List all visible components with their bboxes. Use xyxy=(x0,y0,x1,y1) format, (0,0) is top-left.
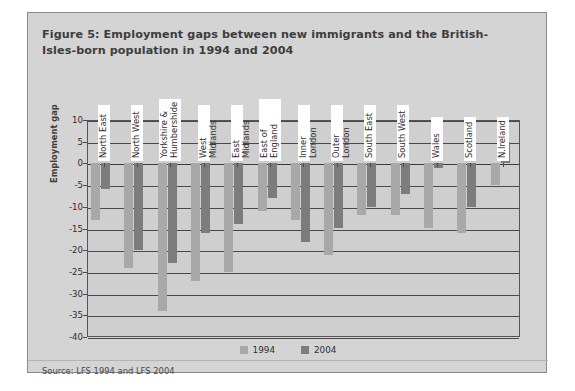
x-category-label: South East xyxy=(364,105,376,161)
x-tickmark xyxy=(237,163,238,167)
bar-2004 xyxy=(334,163,343,228)
bar-2004 xyxy=(234,163,243,224)
bar-1994 xyxy=(91,163,100,219)
x-category-label: West Midlands xyxy=(198,105,210,161)
x-tickmark xyxy=(303,163,304,167)
x-tickmark xyxy=(337,163,338,167)
bar-1994 xyxy=(357,163,366,215)
bar-2004 xyxy=(101,163,110,189)
bar-1994 xyxy=(424,163,433,228)
chart-legend: 19942004 xyxy=(28,345,548,355)
x-tickmark xyxy=(503,163,504,167)
bar-2004 xyxy=(434,163,443,167)
x-category-label: East of England xyxy=(259,99,281,161)
x-category-label: South West xyxy=(397,105,409,161)
bar-2004 xyxy=(201,163,210,232)
legend-item: 1994 xyxy=(240,345,275,355)
legend-item: 2004 xyxy=(301,345,336,355)
x-tickmark xyxy=(437,163,438,167)
gridline xyxy=(88,338,519,339)
bar-1994 xyxy=(158,163,167,311)
legend-label: 2004 xyxy=(314,345,336,355)
x-category-label: East Midlands xyxy=(231,105,243,161)
bar-1994 xyxy=(391,163,400,215)
bar-1994 xyxy=(291,163,300,219)
bar-2004 xyxy=(401,163,410,193)
x-tickmark xyxy=(170,163,171,167)
x-category-label: North West xyxy=(131,105,143,161)
x-category-label: N.Ireland xyxy=(497,117,509,161)
bar-1994 xyxy=(324,163,333,254)
x-category-label: Inner London xyxy=(298,105,310,161)
source-note: Source: LFS 1994 and LFS 2004 xyxy=(42,366,175,376)
bar-1994 xyxy=(258,163,267,211)
y-tickmark xyxy=(83,337,87,338)
bar-2004 xyxy=(301,163,310,241)
legend-label: 1994 xyxy=(253,345,275,355)
x-tickmark xyxy=(137,163,138,167)
bar-1994 xyxy=(491,163,500,185)
x-category-label: North East xyxy=(98,105,110,161)
bar-2004 xyxy=(467,163,476,206)
x-category-label: Yorkshire & Humbershide xyxy=(159,99,181,161)
source-divider xyxy=(28,360,548,361)
bar-1994 xyxy=(224,163,233,272)
x-category-label: Wales xyxy=(431,117,443,161)
bar-2004 xyxy=(268,163,277,198)
bar-1994 xyxy=(457,163,466,232)
legend-swatch xyxy=(240,346,248,354)
x-category-label: Scotland xyxy=(464,117,476,161)
x-tickmark xyxy=(403,163,404,167)
figure-panel: Figure 5: Employment gaps between new im… xyxy=(27,12,547,373)
bar-2004 xyxy=(367,163,376,206)
x-tickmark xyxy=(104,163,105,167)
bar-2004 xyxy=(168,163,177,263)
y-axis-tickmarks xyxy=(28,120,88,337)
bar-2004 xyxy=(134,163,143,250)
legend-swatch xyxy=(301,346,309,354)
bar-1994 xyxy=(124,163,133,267)
x-tickmark xyxy=(470,163,471,167)
x-tickmark xyxy=(370,163,371,167)
x-tickmark xyxy=(270,163,271,167)
x-tickmark xyxy=(204,163,205,167)
figure-title: Figure 5: Employment gaps between new im… xyxy=(42,27,512,59)
bar-1994 xyxy=(191,163,200,280)
x-category-label: Outer London xyxy=(331,105,343,161)
